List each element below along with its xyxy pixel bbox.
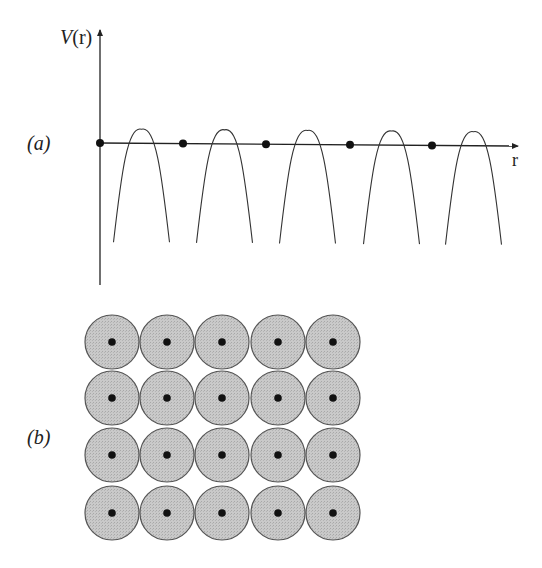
panel-b: (b) [27, 315, 360, 540]
nucleus-dot [108, 394, 116, 402]
nucleus-dot [274, 509, 282, 517]
potential-well-curve [364, 131, 420, 244]
nucleus-dot [329, 394, 337, 402]
panel-a-label: (a) [27, 132, 51, 155]
nucleus-dot [274, 394, 282, 402]
atomic-cell [140, 486, 194, 540]
atomic-cell [251, 428, 305, 482]
atom-site-dot [262, 140, 270, 148]
atomic-cell [195, 486, 249, 540]
y-axis-label: V(r) [60, 26, 92, 49]
potential-well-curve [114, 129, 170, 242]
atomic-cell [195, 371, 249, 425]
nucleus-dot [163, 509, 171, 517]
atom-site-dot [428, 141, 436, 149]
nucleus-dot [329, 451, 337, 459]
nucleus-dot [218, 338, 226, 346]
atomic-cell [85, 371, 139, 425]
atomic-cell [306, 315, 360, 369]
atom-site-dot [179, 140, 187, 148]
atomic-cell [306, 428, 360, 482]
nucleus-dot [163, 338, 171, 346]
atomic-cell [195, 428, 249, 482]
nucleus-dot [329, 338, 337, 346]
atom-sites [96, 139, 436, 149]
potential-well-curve [280, 130, 336, 243]
potential-wells [114, 129, 502, 245]
atomic-cell [251, 486, 305, 540]
atomic-cell [251, 315, 305, 369]
atomic-cell [140, 315, 194, 369]
nucleus-dot [218, 451, 226, 459]
nucleus-dot [218, 509, 226, 517]
x-axis-label: r [512, 150, 518, 170]
atomic-cell [85, 486, 139, 540]
atomic-cell [85, 315, 139, 369]
atomic-cell [306, 371, 360, 425]
nucleus-dot [108, 338, 116, 346]
potential-well-curve [197, 130, 253, 243]
nucleus-dot [108, 451, 116, 459]
atomic-cell [306, 486, 360, 540]
panel-b-label: (b) [27, 426, 51, 449]
atom-site-dot [346, 141, 354, 149]
nucleus-dot [218, 394, 226, 402]
figure-canvas: (a) V(r) r (b) [0, 0, 542, 568]
potential-well-curve [446, 131, 502, 244]
nucleus-dot [163, 451, 171, 459]
nucleus-dot [163, 394, 171, 402]
r-axis [100, 143, 518, 146]
nucleus-dot [274, 338, 282, 346]
y-axis-label-r: (r) [72, 26, 92, 49]
atomic-cell [140, 428, 194, 482]
panel-a: (a) V(r) r [27, 26, 518, 285]
atomic-cell-grid [85, 315, 360, 540]
atomic-cell [140, 371, 194, 425]
nucleus-dot [329, 509, 337, 517]
atomic-cell [195, 315, 249, 369]
nucleus-dot [274, 451, 282, 459]
atomic-cell [85, 428, 139, 482]
atomic-cell [251, 371, 305, 425]
atom-site-dot [96, 139, 104, 147]
nucleus-dot [108, 509, 116, 517]
